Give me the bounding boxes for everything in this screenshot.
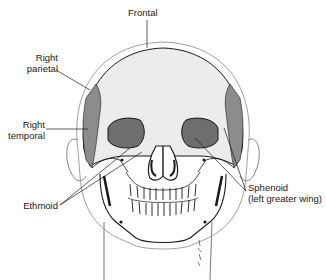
label-frontal-text: Frontal bbox=[128, 7, 158, 18]
mandible bbox=[100, 174, 226, 243]
skull-illustration bbox=[0, 0, 326, 280]
left-mental-foramen bbox=[203, 220, 206, 223]
right-ramus-shadow bbox=[104, 176, 110, 206]
right-infraorbital-foramen bbox=[120, 158, 123, 161]
artist-signature bbox=[198, 240, 201, 266]
label-ethmoid-text: Ethmoid bbox=[23, 200, 58, 211]
right-orbit bbox=[108, 118, 144, 148]
label-right-temporal-line1: Right bbox=[0, 119, 45, 130]
label-right-temporal-line2: temporal bbox=[0, 130, 45, 141]
left-ramus-shadow bbox=[216, 176, 222, 206]
label-right-temporal: Right temporal bbox=[0, 119, 45, 141]
right-parietal-leader-line bbox=[56, 70, 90, 90]
label-frontal: Frontal bbox=[128, 7, 158, 18]
label-right-parietal-line1: Right bbox=[8, 52, 58, 63]
label-sphenoid-line2: (left greater wing) bbox=[248, 193, 322, 204]
label-right-parietal-line2: parietal bbox=[8, 63, 58, 74]
left-infraorbital-foramen bbox=[202, 158, 205, 161]
neck-outline bbox=[104, 222, 212, 280]
label-sphenoid-line1: Sphenoid bbox=[248, 182, 322, 193]
skull-diagram: Frontal Right parietal Right temporal Et… bbox=[0, 0, 326, 280]
label-right-parietal: Right parietal bbox=[8, 52, 58, 74]
right-mental-foramen bbox=[119, 220, 122, 223]
label-ethmoid: Ethmoid bbox=[14, 200, 58, 211]
label-sphenoid: Sphenoid (left greater wing) bbox=[248, 182, 322, 204]
